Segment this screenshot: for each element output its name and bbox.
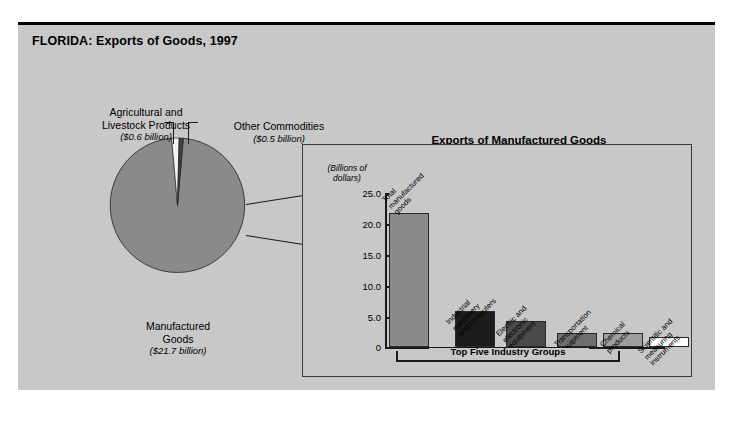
pie-label-manufactured: Manufactured Goods ($21.7 billion) (110, 320, 246, 358)
pie-label-agricultural: Agricultural and Livestock Products ($0.… (76, 106, 216, 144)
bar-plot-area: 25.0 20.0 15.0 10.0 5.0 0 Totalmanufactu… (303, 145, 693, 378)
pie-label-agricultural-line2: Livestock Products (102, 119, 190, 131)
bar-total-manufactured-goods (389, 213, 429, 347)
bar-label-scientific-and-measuring-instruments: Scientific andmeasuringinstruments (637, 318, 687, 368)
pie-value-agricultural: ($0.6 billion) (76, 131, 216, 144)
y-tick-label-5: 5.0 (335, 312, 381, 323)
pie-chart: Agricultural and Livestock Products ($0.… (18, 22, 318, 390)
y-tick-label-0: 0 (335, 342, 381, 353)
pie-slices (109, 137, 246, 274)
callout-line-lower (246, 235, 303, 245)
bracket-horizontal-line (396, 360, 620, 362)
pie-label-other-commodities: Other Commodities ($0.5 billion) (214, 120, 344, 145)
y-tick-label-20: 20.0 (335, 219, 381, 230)
y-tick-label-10: 10.0 (335, 281, 381, 292)
y-tick-label-15: 15.0 (335, 250, 381, 261)
y-tick-label-25: 25.0 (335, 188, 381, 199)
pie-value-manufactured: ($21.7 billion) (110, 345, 246, 358)
y-tick-mark-0 (385, 347, 389, 349)
pie-label-other-line1: Other Commodities (234, 120, 324, 132)
pie-label-agricultural-line1: Agricultural and (110, 106, 183, 118)
bar-chart-panel: (Billions of dollars) 25.0 20.0 15.0 10.… (302, 144, 692, 377)
figure-panel: FLORIDA: Exports of Goods, 1997 Agricult… (18, 22, 715, 390)
y-axis-line (385, 193, 387, 349)
pie-label-manufactured-line1: Manufactured (146, 320, 210, 332)
callout-line-upper (246, 195, 303, 205)
bar-label-total-manufactured-goods: Totalmanufacturedgoods (381, 166, 432, 217)
bracket-label: Top Five Industry Groups (396, 346, 620, 357)
pie-label-manufactured-line2: Goods (163, 333, 194, 345)
